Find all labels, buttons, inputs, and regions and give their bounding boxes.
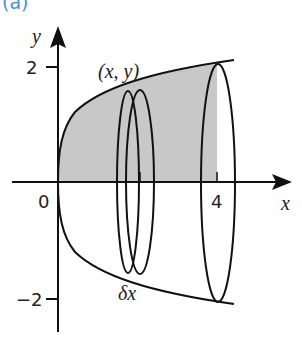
lower-curve	[58, 182, 234, 304]
y-tick-label-neg2: −2	[16, 289, 43, 310]
solid-of-revolution-diagram: y x 2 −2 0 4 (x, y) δx	[0, 0, 302, 342]
x-axis-label: x	[280, 192, 290, 214]
point-label: (x, y)	[98, 60, 139, 83]
delta-x-label: δx	[118, 282, 136, 304]
y-tick-label-2: 2	[26, 57, 37, 78]
x-tick-label-4: 4	[211, 191, 222, 212]
origin-label: 0	[38, 191, 49, 212]
y-axis-label: y	[30, 25, 41, 48]
